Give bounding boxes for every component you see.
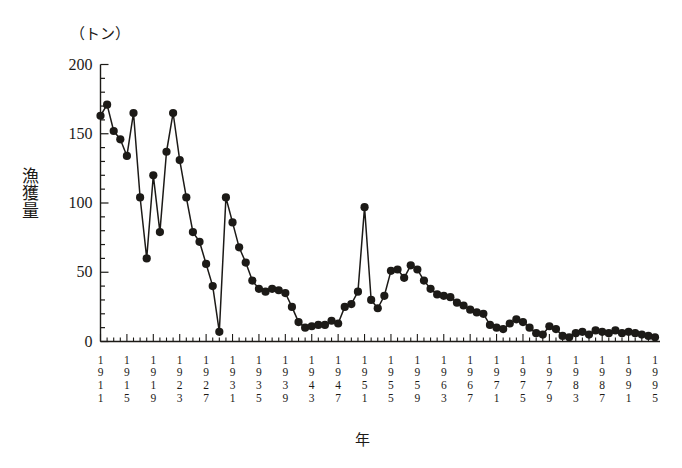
data-point [162, 148, 170, 156]
data-point [182, 193, 190, 201]
data-point [195, 238, 203, 246]
data-point [420, 276, 428, 284]
data-point [123, 152, 131, 160]
data-point [413, 265, 421, 273]
data-point [116, 135, 124, 143]
data-point [393, 265, 401, 273]
data-point [519, 318, 527, 326]
data-point [479, 310, 487, 318]
data-point [400, 274, 408, 282]
data-point [525, 324, 533, 332]
data-point [360, 203, 368, 211]
plot-area [0, 0, 682, 468]
data-point [347, 300, 355, 308]
data-point [129, 109, 137, 117]
chart-figure: （トン） 漁 獲 量 年 050100150200 19111915191919… [0, 0, 682, 468]
data-point-markers [96, 101, 659, 342]
data-point [539, 330, 547, 338]
data-point [354, 288, 362, 296]
data-point [248, 276, 256, 284]
data-point [446, 293, 454, 301]
data-point [367, 296, 375, 304]
data-point [334, 319, 342, 327]
data-point [215, 328, 223, 336]
data-point [380, 292, 388, 300]
data-point [242, 258, 250, 266]
data-line [101, 105, 656, 338]
data-point [288, 303, 296, 311]
data-point [552, 325, 560, 333]
data-point [426, 285, 434, 293]
data-point [96, 112, 104, 120]
data-point [281, 289, 289, 297]
data-point [209, 282, 217, 290]
data-point [156, 228, 164, 236]
data-point [189, 228, 197, 236]
data-point [651, 333, 659, 341]
data-point [294, 318, 302, 326]
data-point [228, 218, 236, 226]
data-point [499, 325, 507, 333]
data-point [222, 193, 230, 201]
data-point [202, 260, 210, 268]
data-point [176, 156, 184, 164]
data-point [235, 243, 243, 251]
data-point [149, 171, 157, 179]
data-point [136, 193, 144, 201]
data-point [169, 109, 177, 117]
data-point [143, 254, 151, 262]
data-point [103, 101, 111, 109]
data-point [110, 127, 118, 135]
data-point [374, 304, 382, 312]
axis-lines [101, 65, 661, 342]
